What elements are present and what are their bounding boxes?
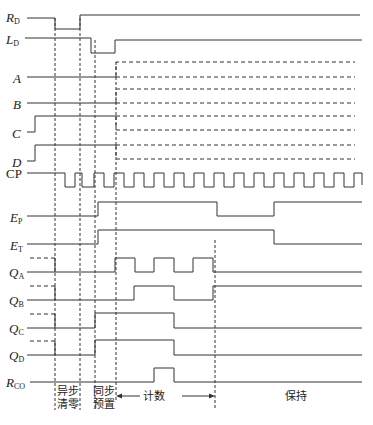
annotation-async-clear: 异步 清零	[57, 385, 79, 411]
wave-c	[27, 116, 116, 132]
wave-qc	[27, 313, 362, 328]
label-qa: QA	[9, 266, 24, 281]
wave-et	[27, 230, 362, 244]
wave-ep	[27, 202, 362, 216]
label-a: A	[13, 72, 21, 85]
label-c: C	[12, 127, 21, 140]
label-cp: CP	[6, 167, 22, 180]
label-rd: RD	[6, 11, 20, 26]
label-qb: QB	[9, 294, 24, 309]
wave-qb	[27, 286, 362, 300]
wave-qa	[27, 258, 362, 272]
wave-ld	[25, 38, 362, 53]
label-et: ET	[10, 239, 23, 254]
label-ep: EP	[10, 211, 22, 226]
wave-rd	[27, 15, 360, 29]
wave-d	[27, 145, 116, 161]
wave-qd	[27, 340, 362, 355]
label-rco: RCO	[6, 376, 25, 391]
label-qc: QC	[9, 322, 24, 337]
label-qd: QD	[9, 349, 24, 364]
wave-cp	[27, 173, 362, 187]
annotation-sync-preset: 同步 预置	[93, 385, 115, 411]
annotation-hold: 保持	[285, 390, 307, 403]
timing-diagram	[0, 0, 373, 425]
label-b: B	[13, 98, 21, 111]
label-ld: LD	[6, 33, 19, 48]
annotation-count: 计数	[143, 390, 165, 403]
